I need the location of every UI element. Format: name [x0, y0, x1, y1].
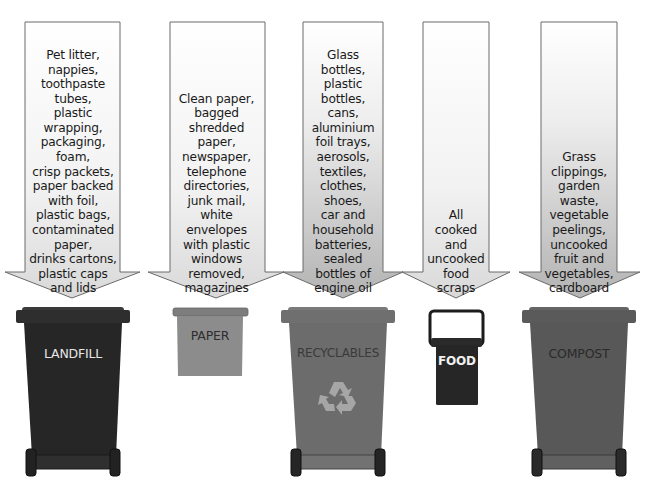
item-line: removed,	[160, 267, 273, 282]
item-line: Clean paper,	[160, 92, 273, 107]
item-line: magazines	[160, 281, 273, 296]
item-line: toothpaste	[18, 77, 128, 92]
item-line: and lids	[18, 281, 128, 296]
item-line: paper backed	[18, 179, 128, 194]
compost-items-text: Grassclippings,gardenwaste,vegetablepeel…	[531, 26, 627, 296]
paper-items-text: Clean paper,baggedshreddedpaper,newspape…	[160, 26, 273, 296]
item-line: plastic	[18, 106, 128, 121]
item-line: garden	[531, 179, 627, 194]
item-line: aerosols,	[292, 150, 394, 165]
item-line: waste,	[531, 194, 627, 209]
item-line: uncooked	[414, 252, 498, 267]
item-line: foam,	[18, 150, 128, 165]
item-line: and	[414, 238, 498, 253]
item-line: directories,	[160, 179, 273, 194]
paper-bin-label: PAPER	[177, 328, 243, 343]
item-line: clothes,	[292, 179, 394, 194]
item-line: shredded	[160, 121, 273, 136]
item-line: household	[292, 223, 394, 238]
recyclables-items: Glassbottles,plasticbottles,cans,alumini…	[292, 48, 394, 296]
item-line: nappies,	[18, 63, 128, 78]
item-line: fruit and	[531, 252, 627, 267]
item-line: foil trays,	[292, 135, 394, 150]
item-line: batteries,	[292, 238, 394, 253]
item-line: car and	[292, 208, 394, 223]
item-line: clippings,	[531, 165, 627, 180]
item-line: bagged	[160, 106, 273, 121]
item-line: plastic bags,	[18, 208, 128, 223]
item-line: peelings,	[531, 223, 627, 238]
item-line: cans,	[292, 106, 394, 121]
food-bin-label: FOOD	[434, 354, 480, 368]
item-line: with plastic	[160, 238, 273, 253]
item-line: wrapping,	[18, 121, 128, 136]
item-line: vegetable	[531, 208, 627, 223]
compost-items: Grassclippings,gardenwaste,vegetablepeel…	[531, 150, 627, 296]
item-line: bottles,	[292, 63, 394, 78]
item-line: envelopes	[160, 223, 273, 238]
item-line: crisp packets,	[18, 165, 128, 180]
item-line: aluminium	[292, 121, 394, 136]
item-line: tubes,	[18, 92, 128, 107]
compost-bin	[522, 307, 636, 476]
item-line: uncooked	[531, 238, 627, 253]
item-line: scraps	[414, 281, 498, 296]
item-line: telephone	[160, 165, 273, 180]
waste-sorting-diagram: Pet litter,nappies,toothpastetubes,plast…	[0, 0, 648, 487]
item-line: Glass	[292, 48, 394, 63]
recyclables-items-text: Glassbottles,plasticbottles,cans,alumini…	[292, 26, 394, 296]
item-line: textiles,	[292, 165, 394, 180]
item-line: paper,	[160, 135, 273, 150]
landfill-items-text: Pet litter,nappies,toothpastetubes,plast…	[18, 26, 128, 296]
item-line: food	[414, 267, 498, 282]
item-line: cardboard	[531, 281, 627, 296]
item-line: vegetables,	[531, 267, 627, 282]
recyclables-bin	[281, 307, 395, 476]
landfill-bin-label: LANDFILL	[24, 346, 122, 361]
item-line: Pet litter,	[18, 48, 128, 63]
item-line: shoes,	[292, 194, 394, 209]
item-line: junk mail,	[160, 194, 273, 209]
item-line: packaging,	[18, 135, 128, 150]
food-items-text: Allcookedanduncookedfoodscraps	[414, 26, 498, 296]
item-line: plastic caps	[18, 267, 128, 282]
recyclables-bin-label: RECYCLABLES	[285, 346, 391, 360]
item-line: newspaper,	[160, 150, 273, 165]
paper-items: Clean paper,baggedshreddedpaper,newspape…	[160, 92, 273, 296]
item-line: sealed	[292, 252, 394, 267]
item-line: drinks cartons,	[18, 252, 128, 267]
item-line: white	[160, 208, 273, 223]
item-line: bottles of	[292, 267, 394, 282]
item-line: Grass	[531, 150, 627, 165]
item-line: engine oil	[292, 281, 394, 296]
item-line: bottles,	[292, 92, 394, 107]
item-line: with foil,	[18, 194, 128, 209]
landfill-items: Pet litter,nappies,toothpastetubes,plast…	[18, 48, 128, 296]
landfill-bin	[16, 307, 130, 476]
item-line: All	[414, 208, 498, 223]
compost-bin-label: COMPOST	[530, 346, 628, 361]
item-line: paper,	[18, 238, 128, 253]
item-line: contaminated	[18, 223, 128, 238]
food-items: Allcookedanduncookedfoodscraps	[414, 208, 498, 296]
item-line: plastic	[292, 77, 394, 92]
item-line: cooked	[414, 223, 498, 238]
item-line: windows	[160, 252, 273, 267]
